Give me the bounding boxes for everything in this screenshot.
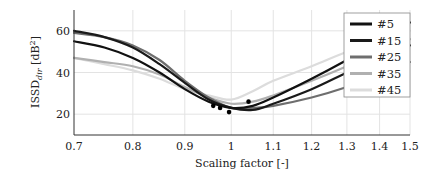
x-tick-label: 0.7	[65, 140, 83, 153]
x-axis-label: Scaling factor [-]	[195, 157, 289, 170]
minimum-marker	[227, 110, 232, 115]
x-tick-labels: 0.70.80.911.11.21.31.41.5	[65, 140, 419, 153]
legend-label: #45	[377, 83, 401, 97]
legend-label: #15	[377, 34, 401, 48]
x-tick-label: 1.3	[338, 140, 356, 153]
legend-label: #5	[377, 17, 394, 31]
x-tick-label: 1.2	[303, 140, 321, 153]
x-tick-label: 1	[228, 140, 235, 153]
x-tick-label: 1.4	[371, 140, 389, 153]
x-tick-label: 1.1	[265, 140, 283, 153]
x-tick-label: 0.9	[176, 140, 194, 153]
legend: #5#15#25#35#45	[344, 13, 410, 97]
minimum-marker	[246, 99, 251, 104]
minimum-marker	[211, 104, 216, 109]
y-tick-labels: 204060	[56, 25, 70, 121]
y-axis-label-close: ]	[29, 36, 42, 40]
legend-label: #35	[377, 67, 401, 81]
chart: 0.70.80.911.11.21.31.41.5 204060 Scaling…	[0, 0, 434, 181]
y-tick-label: 60	[56, 25, 70, 38]
minimum-marker	[218, 106, 223, 111]
legend-label: #25	[377, 50, 401, 64]
y-tick-label: 40	[56, 67, 70, 80]
x-tick-label: 0.8	[124, 140, 142, 153]
x-tick-label: 1.5	[401, 140, 419, 153]
y-axis-label-main: ISSD	[29, 80, 42, 108]
y-tick-label: 20	[56, 108, 70, 121]
y-axis-label: ISSDdir [dB2]	[28, 36, 44, 108]
y-axis-label-unit: [dB	[29, 45, 42, 68]
